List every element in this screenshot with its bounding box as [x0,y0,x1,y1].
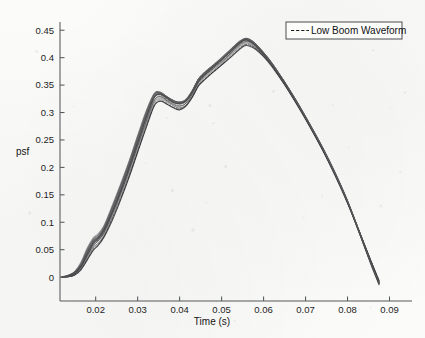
scan-speck [410,147,411,148]
y-tick-label: 0.3 [41,107,54,118]
scan-speck [321,196,323,198]
y-tick-label: 0 [49,272,54,283]
waveform-trace [62,43,379,280]
x-tick-label: 0.06 [254,304,273,315]
waveform-trace [62,40,379,285]
y-tick-label: 0.25 [36,134,55,145]
waveform-trace [62,44,379,282]
waveform-trace [62,39,379,283]
waveform-trace [62,41,379,281]
waveform-trace [62,39,379,284]
scan-speck [28,211,31,214]
scan-speck [390,107,392,109]
legend-entry-label: Low Boom Waveform [311,25,406,36]
scan-speck [372,49,374,51]
waveform-trace [62,40,379,283]
x-tick-label: 0.02 [86,304,105,315]
scan-speck [78,273,80,275]
waveform-trace [62,38,379,282]
x-tick-label: 0.04 [170,304,189,315]
waveform-trace [62,40,379,285]
waveform-trace [62,38,379,283]
scan-speck [145,162,147,164]
waveform-trace [62,38,379,283]
waveform-trace [62,39,379,284]
waveform-trace [62,44,379,280]
y-tick-label: 0.1 [41,217,54,228]
scan-speck [272,90,275,93]
y-tick-label: 0.4 [41,52,54,63]
axis-lines [60,22,412,301]
scan-speck [404,91,407,94]
scan-speck [205,201,207,203]
scan-speck [171,189,174,192]
waveform-trace [62,38,379,282]
x-tick-label: 0.08 [338,304,357,315]
scan-speck [234,320,236,322]
scan-speck [302,217,304,219]
scan-speck [379,205,382,208]
scan-speck [399,171,401,173]
scan-speck [175,236,176,237]
scan-speck [35,50,38,53]
x-axis-title: Time (s) [194,316,230,327]
waveform-trace [62,40,379,282]
x-tick-label: 0.05 [212,304,231,315]
y-tick-label: 0.05 [36,244,55,255]
scan-speck [166,117,168,119]
y-axis-tick-labels: 00.050.10.150.20.250.30.350.40.45 [36,25,55,283]
low-boom-waveform-chart: 0.020.030.040.050.060.070.080.09 00.050.… [0,0,425,338]
scan-speck [73,105,75,107]
x-tick-label: 0.09 [380,304,399,315]
scan-speck [212,122,215,125]
y-tick-label: 0.45 [36,25,55,36]
waveform-trace [62,45,379,281]
scan-speck [191,228,195,232]
waveform-trace [62,41,379,282]
y-tick-label: 0.35 [36,79,55,90]
x-axis-tick-labels: 0.020.030.040.050.060.070.080.09 [86,304,398,315]
scan-speck [224,165,228,169]
y-tick-label: 0.15 [36,189,55,200]
scan-artifacts [28,49,411,322]
scan-speck [348,146,350,148]
chart-legend: Low Boom Waveform [286,22,406,39]
scan-speck [332,103,334,105]
scan-speck [208,104,211,107]
waveform-trace [62,43,379,282]
waveform-traces [62,38,379,284]
y-tick-label: 0.2 [41,162,54,173]
waveform-trace [62,39,379,283]
y-axis-title: psf [16,146,30,157]
figure-container: 0.020.030.040.050.060.070.080.09 00.050.… [0,0,425,338]
x-tick-label: 0.03 [128,304,147,315]
x-tick-label: 0.07 [296,304,315,315]
scan-speck [370,306,372,308]
waveform-trace [62,39,379,283]
